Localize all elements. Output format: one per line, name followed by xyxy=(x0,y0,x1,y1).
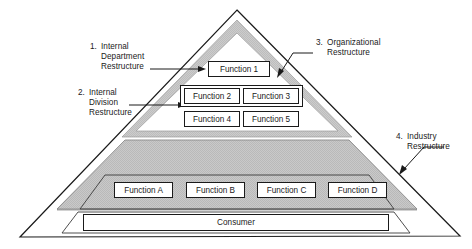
diagram-canvas: 1. Internal Department Restructure 2. In… xyxy=(0,0,472,249)
callout-2-number: 2. xyxy=(78,88,85,98)
callout-2-line1: Internal xyxy=(89,88,132,98)
callout-4-number: 4. xyxy=(396,132,403,142)
function-box-d: Function D xyxy=(328,182,387,198)
callout-label-4: 4. Industry Restructure xyxy=(396,132,450,152)
function-box-2: Function 2 xyxy=(184,88,240,104)
function-box-1: Function 1 xyxy=(208,61,270,77)
callout-4-line1: Industry xyxy=(407,132,450,142)
callout-4-line2: Restructure xyxy=(407,142,450,152)
callout-1-line2: Department xyxy=(101,52,144,62)
callout-1-number: 1. xyxy=(90,42,97,52)
callout-3-line2: Restructure xyxy=(327,48,381,58)
callout-label-1: 1. Internal Department Restructure xyxy=(90,42,144,73)
callout-2-line2: Division xyxy=(89,98,132,108)
callout-label-2: 2. Internal Division Restructure xyxy=(78,88,132,119)
callout-2-line3: Restructure xyxy=(89,108,132,118)
function-box-5: Function 5 xyxy=(243,111,299,127)
function-box-3: Function 3 xyxy=(243,88,299,104)
callout-1-line1: Internal xyxy=(101,42,144,52)
function-box-b: Function B xyxy=(186,182,245,198)
function-box-4: Function 4 xyxy=(184,111,240,127)
consumer-box: Consumer xyxy=(83,214,389,231)
callout-3-line1: Organizational xyxy=(327,38,381,48)
function-box-c: Function C xyxy=(257,182,316,198)
callout-label-3: 3. Organizational Restructure xyxy=(316,38,381,58)
function-box-a: Function A xyxy=(114,182,173,198)
callout-3-number: 3. xyxy=(316,38,323,48)
callout-1-line3: Restructure xyxy=(101,62,144,72)
